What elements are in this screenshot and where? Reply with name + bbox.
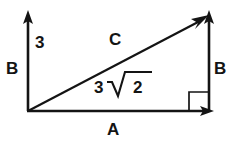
label-hypotenuse-c: C [109,31,121,48]
radical-radicand: 2 [133,78,142,98]
label-vertical-leg-left-b: B [6,60,18,77]
left-vertical-vector-b [23,10,33,111]
label-horizontal-leg-a: A [107,121,119,138]
label-vertical-leg-magnitude: 3 [35,34,44,51]
bottom-horizontal-vector-a [27,106,214,116]
radical-sign-icon [106,69,154,99]
radical-coefficient: 3 [94,78,103,98]
label-vertical-leg-right-b: B [214,60,226,77]
geometry-diagram: B 3 C B A 3 2 [0,0,237,143]
right-vertical-vector-b [204,10,214,112]
